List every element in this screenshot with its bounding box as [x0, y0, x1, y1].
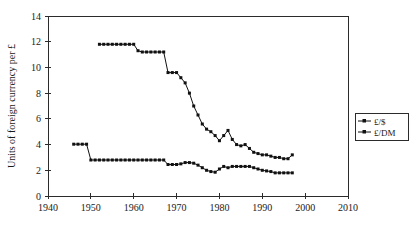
series-point	[222, 165, 225, 168]
series-point	[291, 153, 294, 156]
series-point	[239, 144, 242, 147]
series-point	[77, 143, 80, 146]
series-point	[128, 43, 131, 46]
series-point	[231, 165, 234, 168]
x-tick-label: 1950	[81, 202, 101, 213]
series-point	[184, 161, 187, 164]
series-point	[214, 134, 217, 137]
series-point	[257, 152, 260, 155]
series-point	[154, 159, 157, 162]
series-point	[248, 147, 251, 150]
series-point	[141, 51, 144, 54]
series-point	[235, 165, 238, 168]
series-point	[209, 170, 212, 173]
series-point	[81, 143, 84, 146]
series-point	[184, 81, 187, 84]
series-point	[128, 159, 131, 162]
series-point	[287, 157, 290, 160]
y-tick-label: 0	[36, 191, 41, 202]
series-point	[291, 171, 294, 174]
series-point	[197, 164, 200, 167]
series-point	[72, 143, 75, 146]
legend: £/$ £/DM	[355, 113, 408, 140]
series-point	[89, 159, 92, 162]
series-point	[132, 159, 135, 162]
series-point	[269, 170, 272, 173]
series-point	[209, 130, 212, 133]
series-point	[269, 155, 272, 158]
series-point	[149, 51, 152, 54]
series-point	[124, 159, 127, 162]
series-point	[231, 138, 234, 141]
series-point	[111, 159, 114, 162]
series-point	[261, 169, 264, 172]
legend-marker-gbp-dm	[363, 130, 367, 134]
y-tick-label: 4	[36, 139, 41, 150]
series-point	[98, 159, 101, 162]
series-point	[227, 129, 230, 132]
series-point	[278, 156, 281, 159]
series-point	[132, 43, 135, 46]
series-point	[94, 159, 97, 162]
y-tick-label: 6	[36, 113, 41, 124]
y-tick-label: 10	[31, 62, 41, 73]
series-point	[188, 92, 191, 95]
series-point	[244, 165, 247, 168]
series-point	[119, 159, 122, 162]
series-point	[154, 51, 157, 54]
series-point	[145, 51, 148, 54]
series-point	[158, 51, 161, 54]
y-tick-label: 14	[31, 11, 41, 22]
series-point	[287, 171, 290, 174]
series-point	[192, 162, 195, 165]
x-tick-label: 1940	[38, 202, 58, 213]
series-point	[252, 166, 255, 169]
series-point	[218, 168, 221, 171]
series-point	[179, 162, 182, 165]
legend-marker-gbp-usd	[363, 119, 367, 123]
series-point	[107, 159, 110, 162]
series-point	[167, 71, 170, 74]
x-tick-label: 1980	[209, 202, 229, 213]
series-point	[201, 166, 204, 169]
series-point	[244, 143, 247, 146]
series-point	[235, 143, 238, 146]
series-point	[171, 163, 174, 166]
x-tick-label: 2010	[338, 202, 358, 213]
chart-background	[0, 0, 416, 228]
series-point	[265, 169, 268, 172]
series-point	[137, 159, 140, 162]
x-tick-label: 1960	[124, 202, 144, 213]
series-point	[201, 123, 204, 126]
series-point	[205, 169, 208, 172]
series-point	[257, 168, 260, 171]
series-point	[175, 163, 178, 166]
series-point	[115, 159, 118, 162]
legend-label-gbp-usd: £/$	[374, 117, 386, 127]
series-point	[274, 171, 277, 174]
series-point	[261, 153, 264, 156]
series-point	[107, 43, 110, 46]
series-point	[278, 171, 281, 174]
exchange-rate-line-chart: 02468101214 1940195019601970198019902000…	[0, 0, 416, 228]
series-point	[115, 43, 118, 46]
series-point	[265, 153, 268, 156]
series-point	[222, 134, 225, 137]
x-tick-label: 1970	[167, 202, 187, 213]
series-point	[274, 156, 277, 159]
series-point	[239, 165, 242, 168]
series-point	[227, 166, 230, 169]
series-point	[162, 159, 165, 162]
series-point	[171, 71, 174, 74]
series-point	[188, 161, 191, 164]
series-point	[145, 159, 148, 162]
series-point	[124, 43, 127, 46]
series-point	[197, 114, 200, 117]
series-point	[179, 76, 182, 79]
series-point	[111, 43, 114, 46]
y-axis-title-group: Units of foreign currency per £	[6, 44, 17, 168]
series-point	[137, 49, 140, 52]
series-point	[102, 159, 105, 162]
series-point	[205, 128, 208, 131]
legend-label-gbp-dm: £/DM	[374, 128, 396, 138]
